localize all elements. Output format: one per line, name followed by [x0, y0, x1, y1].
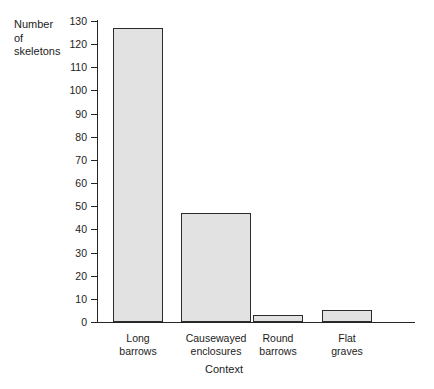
y-axis-tick-label-text: 30 — [61, 248, 87, 259]
y-axis-tick — [91, 90, 97, 91]
y-axis-tick — [91, 322, 97, 323]
y-axis-line — [97, 20, 98, 323]
y-axis-tick-label-text: 130 — [61, 16, 87, 27]
x-axis-category-label: Flat graves — [302, 332, 392, 358]
y-axis-tick-label-text: 70 — [61, 155, 87, 166]
x-axis-line — [97, 322, 415, 323]
y-axis-tick-label: 80 — [61, 132, 87, 143]
y-axis-tick-label-text: 10 — [61, 294, 87, 305]
y-axis-tick-label-text: 50 — [61, 201, 87, 212]
y-axis-tick-label: 10 — [61, 294, 87, 305]
y-axis-tick-label-text: 100 — [61, 85, 87, 96]
y-axis-tick-label: 130 — [61, 16, 87, 27]
y-axis-tick-label-text: 40 — [61, 224, 87, 235]
y-axis-tick-label: 100 — [61, 85, 87, 96]
bar — [181, 213, 251, 322]
y-axis-tick-label: 20 — [61, 271, 87, 282]
y-axis-tick — [91, 114, 97, 115]
bar — [322, 310, 372, 322]
y-axis-tick — [91, 299, 97, 300]
x-axis-category-label: Long barrows — [93, 332, 183, 358]
y-axis-tick — [91, 183, 97, 184]
y-axis-tick — [91, 137, 97, 138]
y-axis-tick-label-text: 80 — [61, 132, 87, 143]
y-axis-tick-label-text: 120 — [61, 39, 87, 50]
y-axis-tick-label: 120 — [61, 39, 87, 50]
y-axis-tick-label: 110 — [61, 62, 87, 73]
y-axis-tick-label: 0 — [61, 317, 87, 328]
y-axis-tick-label: 50 — [61, 201, 87, 212]
y-axis-tick-label-text: 110 — [61, 62, 87, 73]
x-axis-title: Context — [0, 363, 434, 375]
bar — [253, 315, 303, 322]
y-axis-tick-label-text: 60 — [61, 178, 87, 189]
y-axis-tick — [91, 67, 97, 68]
y-axis-tick — [91, 21, 97, 22]
bar — [113, 28, 163, 322]
bar-chart: Number of skeletons 01020304050607080901… — [0, 0, 434, 389]
y-axis-tick — [91, 253, 97, 254]
x-axis-title-text: Context — [205, 363, 243, 375]
y-axis-tick-label: 30 — [61, 248, 87, 259]
y-axis-tick — [91, 44, 97, 45]
y-axis-tick-label-text: 90 — [61, 109, 87, 120]
y-axis-tick-label-text: 20 — [61, 271, 87, 282]
y-axis-tick-label: 70 — [61, 155, 87, 166]
y-axis-tick — [91, 276, 97, 277]
y-axis-tick — [91, 206, 97, 207]
y-axis-tick — [91, 160, 97, 161]
y-axis-tick-label-text: 0 — [61, 317, 87, 328]
y-axis-tick-label: 90 — [61, 109, 87, 120]
y-axis-tick — [91, 229, 97, 230]
y-axis-tick-label: 60 — [61, 178, 87, 189]
y-axis-tick-label: 40 — [61, 224, 87, 235]
